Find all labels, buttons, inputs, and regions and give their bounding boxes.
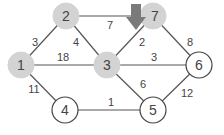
node-2: 2: [53, 3, 79, 29]
node-3-label: 3: [103, 57, 111, 73]
weight-2-7: 7: [107, 19, 113, 31]
node-1-label: 1: [17, 57, 25, 73]
weight-3-5: 6: [140, 78, 146, 90]
weight-1-3: 18: [57, 51, 69, 63]
weight-1-4: 11: [28, 83, 39, 95]
weight-5-6: 12: [181, 87, 193, 99]
weight-3-6: 3: [151, 51, 157, 63]
node-1: 1: [8, 52, 34, 78]
node-3: 3: [94, 52, 120, 78]
node-5: 5: [140, 97, 166, 123]
weight-1-2: 3: [32, 36, 38, 48]
node-6: 6: [186, 52, 212, 78]
weight-2-3: 4: [73, 36, 79, 48]
graph-diagram: 3 4 18 7 2 8 3 6 11 1 12 1 2 3 7 6: [0, 0, 224, 135]
node-5-label: 5: [149, 102, 157, 118]
node-7-label: 7: [151, 8, 159, 24]
node-2-label: 2: [62, 8, 70, 24]
node-7: 7: [140, 3, 166, 29]
node-6-label: 6: [195, 57, 203, 73]
node-4: 4: [52, 97, 78, 123]
node-4-label: 4: [61, 102, 69, 118]
weight-3-7: 2: [139, 36, 145, 48]
weight-7-6: 8: [187, 36, 193, 48]
weight-4-5: 1: [108, 96, 114, 108]
